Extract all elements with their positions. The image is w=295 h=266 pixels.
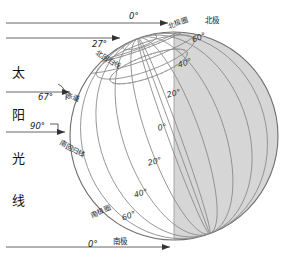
globe-illustration — [0, 0, 295, 266]
earth-illumination-diagram: 太 阳 光 线 0° 27° 67° 90° 0° 北极 南极 北极圈 北回归线… — [0, 0, 295, 266]
north-pole-label: 北极 — [205, 17, 219, 25]
arrowhead-arctic — [112, 35, 120, 41]
sun-label-char-2: 阳 — [12, 108, 25, 121]
sun-label-char-1: 太 — [12, 66, 25, 79]
ray-angle-tropic: 90° — [30, 122, 45, 131]
sun-label-char-3: 光 — [12, 152, 25, 165]
ray-angle-equator: 67° — [38, 93, 53, 102]
ray-angle-bottom: 0° — [88, 240, 98, 249]
south-pole-label: 南极 — [113, 238, 127, 246]
ray-angle-top: 0° — [129, 12, 139, 21]
sun-label-char-4: 线 — [12, 194, 25, 207]
right-angle-marker — [50, 124, 58, 132]
ray-angle-arctic: 27° — [92, 40, 107, 49]
arrowhead-bottom — [162, 244, 170, 250]
